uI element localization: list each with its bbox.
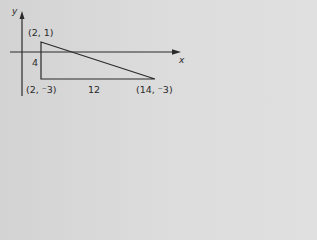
right-triangle [41,42,155,79]
x-axis-arrow-icon [172,49,181,54]
vertex-label-far: (14, ⁻3) [136,84,173,95]
vertex-label-right-angle: (2, ⁻3) [26,84,57,95]
coordinate-diagram: y x (2, 1) (2, ⁻3) (14, ⁻3) 4 12 [0,0,191,103]
side-length-horizontal: 12 [88,84,100,95]
x-axis-label: x [178,55,185,65]
y-axis [20,11,25,96]
y-axis-label: y [11,6,18,16]
vertex-label-top: (2, 1) [28,27,54,38]
y-axis-arrow-icon [20,11,25,19]
x-axis [10,49,181,54]
side-length-vertical: 4 [32,57,38,68]
